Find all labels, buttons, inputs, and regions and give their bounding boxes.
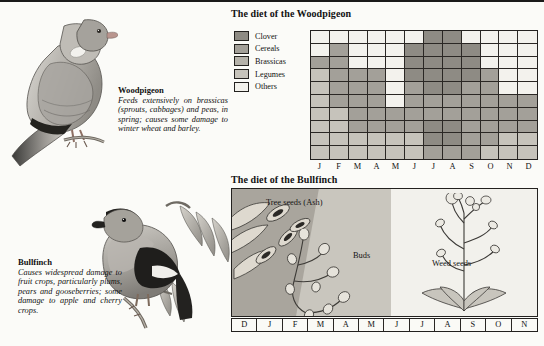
heatmap-cell xyxy=(499,146,518,159)
woodpigeon-description: Feeds extensively on brassicas (sprouts,… xyxy=(118,96,228,134)
heatmap-cell xyxy=(368,108,387,121)
heatmap-row xyxy=(311,44,537,57)
heatmap-cell xyxy=(386,82,405,95)
month-label: D xyxy=(519,160,538,173)
woodpigeon-illustration xyxy=(6,6,118,172)
heatmap-row xyxy=(311,31,537,44)
heatmap-cell xyxy=(368,69,387,82)
month-label: N xyxy=(512,319,537,331)
heatmap-cell xyxy=(499,82,518,95)
heatmap-cell xyxy=(443,82,462,95)
legend-label: Cereals xyxy=(255,44,280,53)
heatmap-cell xyxy=(462,133,481,146)
month-label: F xyxy=(329,160,348,173)
heatmap-cell xyxy=(311,108,330,121)
heatmap-cell xyxy=(443,44,462,57)
heatmap-cell xyxy=(368,44,387,57)
heatmap-cell xyxy=(462,95,481,108)
heatmap-cell xyxy=(386,121,405,134)
heatmap-cell xyxy=(349,121,368,134)
heatmap-cell xyxy=(443,108,462,121)
heatmap-cell xyxy=(386,146,405,159)
heatmap-cell xyxy=(386,108,405,121)
bullfinch-diet-panel: Tree seeds (Ash) Buds Weed seeds xyxy=(231,188,538,317)
woodpigeon-caption: Woodpigeon Feeds extensively on brassica… xyxy=(118,86,228,134)
heatmap-cell xyxy=(518,82,537,95)
heatmap-cell xyxy=(518,121,537,134)
legend-swatch-icon xyxy=(234,82,249,92)
heatmap-cell xyxy=(349,31,368,44)
heatmap-cell xyxy=(518,146,537,159)
heatmap-cell xyxy=(424,95,443,108)
heatmap-cell xyxy=(311,133,330,146)
heatmap-cell xyxy=(386,44,405,57)
month-label: N xyxy=(500,160,519,173)
band-label-buds: Buds xyxy=(353,251,370,260)
heatmap-cell xyxy=(349,133,368,146)
band-label-tree-seeds: Tree seeds (Ash) xyxy=(266,198,322,207)
heatmap-cell xyxy=(330,82,349,95)
heatmap-cell xyxy=(368,95,387,108)
legend-swatch-icon xyxy=(234,69,249,79)
month-label: A xyxy=(334,319,359,331)
bullfinch-description: Causes widespread damage to fruit crops,… xyxy=(18,268,122,316)
legend-item: Legumes xyxy=(234,68,306,81)
buds-drawing xyxy=(276,229,386,317)
heatmap-cell xyxy=(349,146,368,159)
heatmap-cell xyxy=(330,57,349,70)
month-label: A xyxy=(435,319,460,331)
heatmap-cell xyxy=(518,95,537,108)
heatmap-cell xyxy=(424,82,443,95)
bullfinch-name: Bullfinch xyxy=(18,258,122,268)
heatmap-cell xyxy=(330,31,349,44)
heatmap-cell xyxy=(481,69,500,82)
woodpigeon-legend: CloverCerealsBrassicasLegumesOthers xyxy=(234,30,306,93)
heatmap-row xyxy=(311,121,537,134)
month-label: S xyxy=(462,160,481,173)
month-label: A xyxy=(367,160,386,173)
heatmap-cell xyxy=(405,133,424,146)
heatmap-cell xyxy=(405,44,424,57)
bullfinch-month-axis: DJFMAMJJASON xyxy=(231,318,538,332)
heatmap-cell xyxy=(386,31,405,44)
heatmap-cell xyxy=(368,121,387,134)
heatmap-cell xyxy=(443,121,462,134)
heatmap-cell xyxy=(499,121,518,134)
heatmap-cell xyxy=(349,108,368,121)
heatmap-cell xyxy=(481,108,500,121)
heatmap-cell xyxy=(405,82,424,95)
month-label: M xyxy=(386,160,405,173)
heatmap-cell xyxy=(499,133,518,146)
heatmap-cell xyxy=(311,44,330,57)
heatmap-cell xyxy=(462,121,481,134)
month-label: M xyxy=(359,319,384,331)
heatmap-cell xyxy=(462,31,481,44)
heatmap-cell xyxy=(311,82,330,95)
heatmap-cell xyxy=(424,121,443,134)
heatmap-cell xyxy=(349,57,368,70)
legend-item: Clover xyxy=(234,30,306,43)
heatmap-cell xyxy=(424,31,443,44)
heatmap-cell xyxy=(405,57,424,70)
heatmap-cell xyxy=(330,44,349,57)
heatmap-cell xyxy=(518,108,537,121)
heatmap-cell xyxy=(499,44,518,57)
heatmap-cell xyxy=(462,57,481,70)
heatmap-cell xyxy=(405,121,424,134)
month-label: J xyxy=(257,319,282,331)
heatmap-cell xyxy=(499,57,518,70)
month-label: J xyxy=(410,319,435,331)
heatmap-cell xyxy=(330,69,349,82)
month-label: J xyxy=(310,160,329,173)
heatmap-cell xyxy=(443,95,462,108)
heatmap-cell xyxy=(311,57,330,70)
heatmap-cell xyxy=(311,121,330,134)
heatmap-cell xyxy=(518,57,537,70)
legend-label: Clover xyxy=(255,32,277,41)
heatmap-cell xyxy=(368,31,387,44)
heatmap-cell xyxy=(311,146,330,159)
heatmap-cell xyxy=(481,146,500,159)
legend-swatch-icon xyxy=(234,44,249,54)
top-rule xyxy=(0,0,544,2)
heatmap-cell xyxy=(499,69,518,82)
